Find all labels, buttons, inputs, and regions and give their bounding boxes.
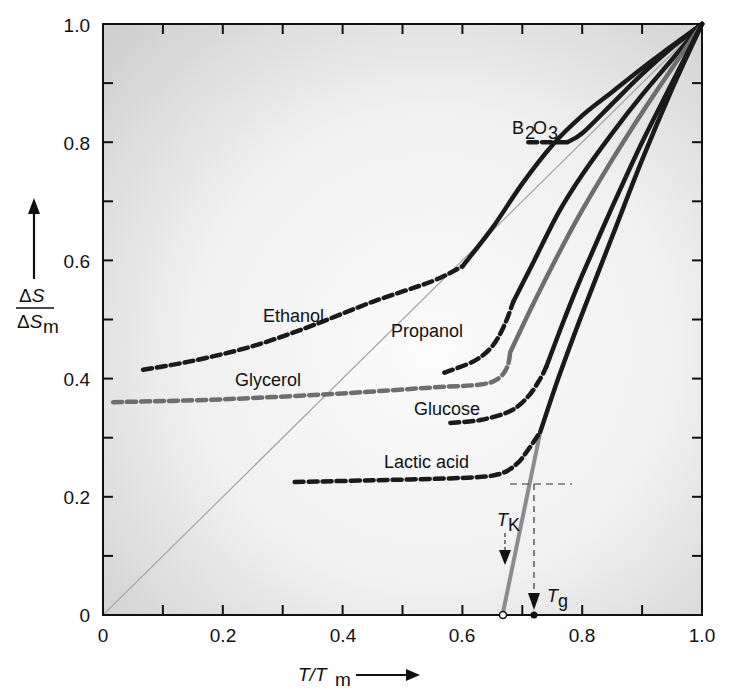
x-tick-label: 0.6 <box>449 625 475 646</box>
x-tick-label: 0.4 <box>330 625 357 646</box>
y-tick-label: 1.0 <box>64 15 90 36</box>
y-axis-title: ΔS ΔS m <box>16 198 59 337</box>
svg-text:O: O <box>533 118 547 138</box>
svg-text:ΔS: ΔS <box>19 285 45 306</box>
y-tick-label: 0.8 <box>64 133 90 154</box>
tg-marker <box>531 612 538 619</box>
x-tick-label: 0.8 <box>569 625 595 646</box>
label-ethanol: Ethanol <box>263 306 324 326</box>
x-tick-label: 0.2 <box>210 625 236 646</box>
x-tick-label: 0 <box>98 625 109 646</box>
svg-text:B: B <box>512 118 524 138</box>
svg-text:T/T: T/T <box>298 664 328 685</box>
svg-text:g: g <box>558 591 568 611</box>
y-axis-arrow-icon <box>28 198 40 214</box>
tk-marker <box>500 612 507 619</box>
y-tick-label: 0.6 <box>64 251 90 272</box>
label-glucose: Glucose <box>414 399 480 419</box>
y-tick-label: 0.2 <box>64 487 90 508</box>
label-propanol: Propanol <box>391 321 463 341</box>
label-lactic-acid: Lactic acid <box>384 452 469 472</box>
x-tick-label: 1.0 <box>689 625 715 646</box>
y-tick-label: 0 <box>79 605 90 626</box>
svg-text:m: m <box>43 316 59 337</box>
entropy-ratio-chart: 0 0.2 0.4 0.6 0.8 1.0 0 0.2 0.4 0.6 0.8 … <box>0 0 730 696</box>
svg-text:m: m <box>335 669 351 690</box>
svg-text:ΔS: ΔS <box>17 311 43 332</box>
y-tick-label: 0.4 <box>64 369 91 390</box>
x-axis-arrow-icon <box>406 669 420 681</box>
svg-text:K: K <box>508 515 520 535</box>
x-axis-title: T/T m <box>298 664 420 690</box>
svg-text:3: 3 <box>548 123 558 143</box>
label-glycerol: Glycerol <box>235 370 301 390</box>
